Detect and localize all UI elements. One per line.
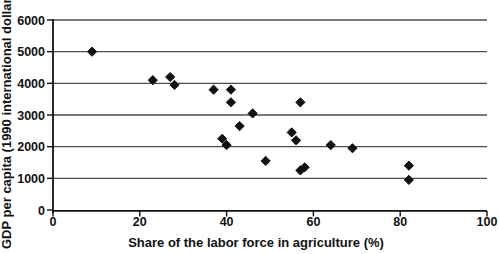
y-tick-label: 6000	[17, 14, 45, 28]
data-point	[404, 161, 413, 170]
x-tick-label: 60	[306, 215, 320, 229]
data-point	[226, 98, 235, 107]
scatter-chart: 0100020003000400050006000020406080100 GD…	[0, 0, 499, 254]
data-point	[235, 121, 244, 130]
tick-labels: 0100020003000400050006000020406080100	[17, 14, 497, 230]
y-tick-label: 5000	[17, 45, 45, 59]
y-axis-title: GDP per capita (1990 international dolla…	[0, 0, 14, 249]
tick-marks	[47, 20, 487, 217]
data-point	[226, 85, 235, 94]
data-point	[87, 47, 96, 56]
y-tick-label: 0	[38, 204, 45, 218]
x-axis-title: Share of the labor force in agriculture …	[128, 235, 384, 250]
data-point	[287, 128, 296, 137]
x-tick-label: 80	[393, 215, 407, 229]
data-point	[404, 175, 413, 184]
x-tick-label: 20	[133, 215, 147, 229]
data-point	[348, 144, 357, 153]
plot-area: 0100020003000400050006000020406080100 GD…	[0, 0, 499, 254]
x-tick-label: 0	[50, 215, 57, 229]
gridlines	[53, 20, 487, 178]
y-tick-label: 3000	[17, 109, 45, 123]
y-tick-label: 1000	[17, 172, 45, 186]
x-tick-label: 40	[220, 215, 234, 229]
data-point	[291, 136, 300, 145]
data-point	[296, 98, 305, 107]
y-tick-label: 2000	[17, 140, 45, 154]
axes	[53, 19, 487, 213]
data-point	[209, 85, 218, 94]
data-point	[326, 140, 335, 149]
data-point	[166, 72, 175, 81]
data-point	[248, 109, 257, 118]
data-points	[87, 47, 413, 184]
data-point	[170, 80, 179, 89]
data-point	[261, 156, 270, 165]
y-tick-label: 4000	[17, 77, 45, 91]
x-tick-label: 100	[477, 215, 498, 229]
